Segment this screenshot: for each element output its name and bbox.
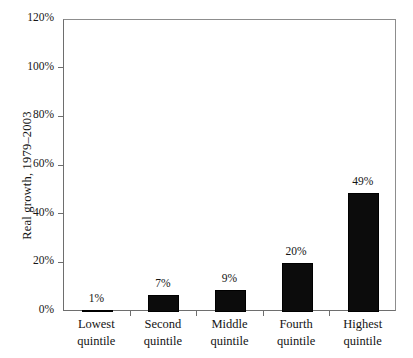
bar-chart: Real growth, 1979–2003 0%20%40%60%80%100… bbox=[0, 0, 413, 358]
bar-value-label: 20% bbox=[266, 245, 326, 257]
bar bbox=[282, 263, 313, 312]
y-axis-title: Real growth, 1979–2003 bbox=[20, 71, 35, 281]
y-tick-label: 20% bbox=[33, 254, 54, 266]
y-tick-label: 0% bbox=[39, 303, 54, 315]
bar bbox=[82, 310, 113, 313]
y-tick-label: 100% bbox=[27, 60, 54, 72]
bar bbox=[348, 193, 379, 312]
bar bbox=[148, 295, 179, 312]
bar-value-label: 7% bbox=[133, 277, 193, 289]
bar-value-label: 49% bbox=[333, 175, 393, 187]
y-tick-label: 80% bbox=[33, 108, 54, 120]
category-label-line: quintile bbox=[323, 333, 403, 350]
y-tick-label: 40% bbox=[33, 206, 54, 218]
bar-value-label: 1% bbox=[66, 292, 126, 304]
bar bbox=[215, 290, 246, 312]
plot-area bbox=[63, 19, 396, 311]
y-tick-label: 60% bbox=[33, 157, 54, 169]
category-label-line: Highest bbox=[323, 316, 403, 333]
y-tick-label: 120% bbox=[27, 11, 54, 23]
bar-value-label: 9% bbox=[200, 272, 260, 284]
category-label: Highestquintile bbox=[323, 316, 403, 349]
